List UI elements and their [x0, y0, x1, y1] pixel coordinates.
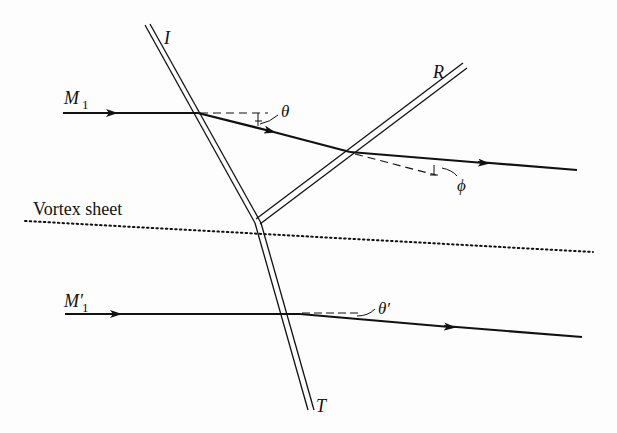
vortex-sheet-label: Vortex sheet — [33, 199, 122, 219]
transmitted-shock-line — [255, 223, 314, 410]
transmitted-shock-label: T — [316, 396, 328, 416]
upper-mach-subscript: 1 — [82, 97, 89, 112]
reflected-shock-line — [256, 63, 467, 224]
lower-mach-label: M′ — [63, 291, 84, 311]
reflected-shock-label: R — [432, 62, 444, 82]
lower-mach-subscript: 1 — [82, 300, 89, 315]
theta-label: θ — [281, 102, 289, 121]
upper-mach-label: M — [63, 88, 80, 108]
vortex-sheet-line — [25, 221, 593, 252]
lower-streamline — [65, 314, 582, 337]
upper-streamline — [63, 113, 577, 170]
theta-prime-label: θ′ — [378, 299, 390, 318]
phi-label: ϕ — [457, 176, 466, 195]
shock-triple-point-diagram: I R T M 1 M′ 1 θ ϕ θ′ Vortex sheet — [0, 0, 617, 433]
diagram-canvas: I R T M 1 M′ 1 θ ϕ θ′ Vortex sheet — [0, 0, 617, 433]
incident-shock-label: I — [163, 28, 171, 48]
